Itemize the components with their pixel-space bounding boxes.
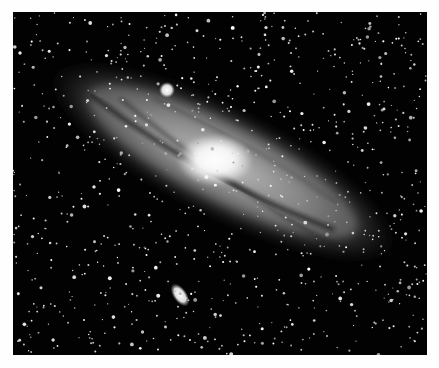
- galaxy-core: [177, 134, 253, 186]
- galaxy-photo: [13, 12, 427, 355]
- galaxy-illustration: [13, 12, 427, 355]
- companion-galaxy-upper: [159, 82, 175, 98]
